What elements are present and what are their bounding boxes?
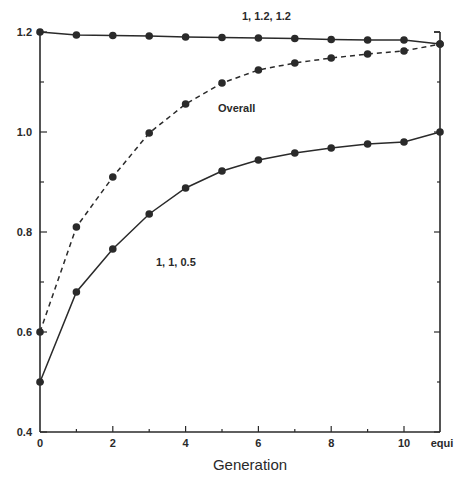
data-point — [218, 167, 226, 175]
data-point — [145, 32, 153, 40]
y-tick-label: 0.8 — [17, 226, 32, 238]
x-tick-label: 4 — [183, 437, 190, 449]
data-point — [145, 210, 153, 218]
data-point — [182, 33, 190, 41]
x-tick-label: 8 — [328, 437, 334, 449]
x-tick-label: 2 — [110, 437, 116, 449]
data-point — [36, 328, 44, 336]
y-ticks: 0.40.60.81.01.2 — [17, 26, 440, 438]
series-label-bottom: 1, 1, 0.5 — [156, 256, 196, 268]
data-point — [364, 36, 372, 44]
data-point — [364, 140, 372, 148]
data-point — [400, 47, 408, 55]
x-axis-title: Generation — [213, 456, 287, 473]
data-point — [218, 79, 226, 87]
x-tick-label: equi — [431, 437, 454, 449]
data-point — [36, 28, 44, 36]
data-point — [36, 378, 44, 386]
series-labels: 1, 1.2, 1.2 Overall 1, 1, 0.5 — [156, 10, 291, 268]
data-point — [255, 66, 263, 74]
data-point — [182, 184, 190, 192]
data-point — [145, 129, 153, 137]
series-line-0 — [40, 32, 440, 44]
series-line-1 — [40, 44, 440, 332]
y-tick-label: 1.0 — [17, 126, 32, 138]
x-ticks: 0246810equi — [37, 426, 453, 449]
data-point — [73, 31, 81, 39]
data-point — [436, 40, 444, 48]
data-point — [255, 156, 263, 164]
series-label-overall: Overall — [218, 102, 255, 114]
data-point — [109, 245, 117, 253]
data-point — [73, 223, 81, 231]
data-point — [327, 54, 335, 62]
data-point — [255, 34, 263, 42]
plot-area: 0.40.60.81.01.2 0246810equi 1, 1.2, 1.2 … — [17, 10, 454, 473]
data-point — [400, 36, 408, 44]
data-point — [327, 36, 335, 44]
y-tick-label: 1.2 — [17, 26, 32, 38]
data-point — [109, 32, 117, 40]
data-point — [73, 288, 81, 296]
series-line-2 — [40, 132, 440, 382]
line-chart: 0.40.60.81.01.2 0246810equi 1, 1.2, 1.2 … — [0, 0, 460, 480]
data-point — [400, 138, 408, 146]
data-point — [327, 144, 335, 152]
x-tick-label: 10 — [398, 437, 410, 449]
data-point — [182, 100, 190, 108]
data-point — [291, 59, 299, 67]
x-tick-label: 6 — [255, 437, 261, 449]
series — [36, 28, 444, 386]
data-point — [109, 173, 117, 181]
data-point — [291, 149, 299, 157]
series-label-top: 1, 1.2, 1.2 — [242, 10, 291, 22]
x-tick-label: 0 — [37, 437, 43, 449]
data-point — [291, 35, 299, 43]
data-point — [218, 34, 226, 42]
data-point — [364, 50, 372, 58]
y-tick-label: 0.6 — [17, 326, 32, 338]
y-tick-label: 0.4 — [17, 426, 33, 438]
data-point — [436, 128, 444, 136]
